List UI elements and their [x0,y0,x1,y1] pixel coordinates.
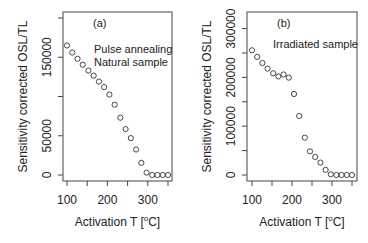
annotation-text: Pulse annealing [94,43,172,55]
data-point [323,167,328,172]
data-point [255,54,260,59]
x-axis-label-unit: C] [333,215,345,229]
panel-a: 100200300050000150000Activation T [oC]Se… [16,12,172,229]
x-tick-label: 300 [138,193,158,207]
data-point [70,50,75,55]
data-point [118,115,123,120]
data-point [328,172,333,177]
data-point [91,73,96,78]
x-tick-label: 300 [322,193,342,207]
data-point [155,172,160,177]
data-point [297,113,302,118]
data-point [64,43,69,48]
data-point [307,149,312,154]
data-point [271,71,276,76]
chart-svg: 100200300050000150000Activation T [oC]Se… [0,0,368,243]
x-axis-label-unit: C] [148,215,160,229]
x-tick-label: 100 [57,193,77,207]
x-tick-label: 100 [242,193,262,207]
annotation-text: Natural sample [94,56,168,68]
x-tick-label: 200 [97,193,117,207]
data-point [102,84,107,89]
x-tick-label: 200 [282,193,302,207]
data-point [286,75,291,80]
y-tick-label: 200000 [224,57,238,97]
data-point [86,68,91,73]
data-point [139,160,144,165]
data-point [349,172,354,177]
data-point [265,66,270,71]
y-tick-label: 0 [224,171,238,178]
panel-label: (a) [93,17,106,29]
panel-b: 1002003000100000200000300000Activation T… [200,8,358,229]
data-point [96,79,101,84]
annotation-text: Irradiated sample [273,38,358,50]
data-point [160,172,165,177]
plot-frame [63,12,172,181]
y-axis-label: Sensitivity corrected OSL/TL [200,20,214,172]
y-tick-label: 150000 [40,37,54,77]
data-point [281,72,286,77]
y-tick-label: 100000 [224,106,238,146]
data-point [334,172,339,177]
data-point [260,60,265,65]
y-tick-label: 300000 [224,8,238,48]
data-point [291,91,296,96]
data-point [313,154,318,159]
data-point [276,74,281,79]
y-axis-label: Sensitivity corrected OSL/TL [16,20,30,172]
panel-label: (b) [277,17,290,29]
data-point [302,135,307,140]
data-point [133,147,138,152]
data-point [128,136,133,141]
data-point [339,172,344,177]
data-point [150,172,155,177]
figure: 100200300050000150000Activation T [oC]Se… [0,0,368,243]
data-point [80,62,85,67]
y-tick-label: 0 [40,171,54,178]
data-point [318,160,323,165]
data-point [144,170,149,175]
data-point [112,102,117,107]
x-axis-label: Activation T [oC] [259,214,344,229]
y-tick-label: 50000 [40,119,54,153]
data-point [344,172,349,177]
x-axis-label: Activation T [oC] [75,214,160,229]
data-point [75,56,80,61]
data-point [165,172,170,177]
data-point [249,48,254,53]
data-point [123,126,128,131]
data-point [107,92,112,97]
